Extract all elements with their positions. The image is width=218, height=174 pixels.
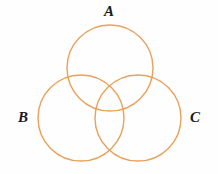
venn-circles-svg <box>0 0 218 174</box>
set-label-c: C <box>184 110 206 125</box>
set-label-b: B <box>12 110 34 125</box>
circle-set-c <box>95 75 181 161</box>
circle-set-b <box>38 75 124 161</box>
circle-set-a <box>67 25 153 111</box>
set-label-a: A <box>0 4 218 19</box>
venn-diagram-figure: A B C <box>0 0 218 174</box>
